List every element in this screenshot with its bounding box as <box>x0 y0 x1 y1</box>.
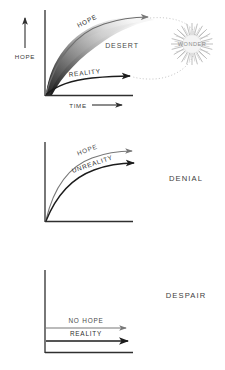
wonder-label: WONDER <box>178 41 206 47</box>
desert-label: DESERT <box>105 42 139 49</box>
panel3-no-hope-label: NO HOPE <box>68 317 103 324</box>
panel-denial: HOPE UNREALITY DENIAL <box>45 142 203 222</box>
desert-region-shape <box>46 17 154 95</box>
despair-state-label: DESPAIR <box>166 291 206 300</box>
time-axis-label: TIME <box>69 102 87 109</box>
panel-hope-desert: HOPE <box>15 10 213 109</box>
panel3-reality-label: REALITY <box>70 330 102 337</box>
wonder-burst: WONDER <box>171 23 213 65</box>
hope-axis-indicator: HOPE <box>15 18 35 60</box>
panel2-hope-curve-label: HOPE <box>76 143 98 157</box>
panel-despair: NO HOPE REALITY DESPAIR <box>45 270 206 353</box>
wonder-loop-bottom <box>133 56 193 79</box>
hope-reality-diagram: HOPE <box>0 0 225 370</box>
hope-axis-label: HOPE <box>15 53 35 60</box>
panel2-unreality-curve <box>46 163 134 221</box>
denial-state-label: DENIAL <box>169 174 203 183</box>
panel1-reality-curve-label: REALITY <box>68 67 101 78</box>
